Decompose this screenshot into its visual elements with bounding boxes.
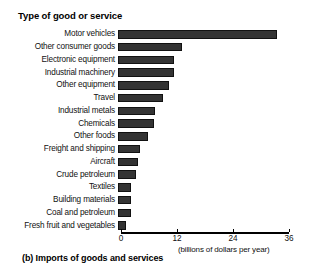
category-label: Other foods <box>0 132 118 140</box>
bar-row: Other foods <box>0 130 312 143</box>
bar-row: Other equipment <box>0 79 312 92</box>
category-label: Crude petroleum <box>0 171 118 179</box>
x-axis-tick-label: 36 <box>285 234 294 243</box>
category-label: Industrial machinery <box>0 69 118 77</box>
bar-row: Coal and petroleum <box>0 207 312 220</box>
bar-track <box>118 28 312 41</box>
y-axis-title: Type of good or service <box>18 10 122 21</box>
category-label: Coal and petroleum <box>0 209 118 217</box>
category-label: Motor vehicles <box>0 30 118 38</box>
bar <box>118 56 174 65</box>
category-label: Textiles <box>0 183 118 191</box>
category-label: Aircraft <box>0 158 118 166</box>
x-axis-tick-label: 0 <box>119 234 123 243</box>
x-axis-tick <box>177 229 178 233</box>
bar-track <box>118 156 312 169</box>
bar <box>118 183 131 192</box>
category-label: Other consumer goods <box>0 43 118 51</box>
bar-track <box>118 181 312 194</box>
bar-row: Electronic equipment <box>0 54 312 67</box>
x-axis-tick-label: 12 <box>173 234 182 243</box>
bar-row: Crude petroleum <box>0 168 312 181</box>
figure-caption: (b) Imports of goods and services <box>22 253 163 263</box>
bar <box>118 30 277 39</box>
category-label: Chemicals <box>0 120 118 128</box>
bar <box>118 107 155 116</box>
x-axis-line <box>121 232 289 234</box>
bar-chart-figure: Type of good or service Motor vehiclesOt… <box>0 0 312 273</box>
bar <box>118 158 138 167</box>
category-label: Travel <box>0 94 118 102</box>
x-axis-tick-label: 24 <box>229 234 238 243</box>
bar <box>118 170 136 179</box>
bar-track <box>118 41 312 54</box>
bar-track <box>118 194 312 207</box>
bar-track <box>118 105 312 118</box>
bar-row: Industrial metals <box>0 105 312 118</box>
bar-row: Freight and shipping <box>0 143 312 156</box>
bar-row: Chemicals <box>0 117 312 130</box>
bar-row: Building materials <box>0 194 312 207</box>
bar-track <box>118 219 312 232</box>
bar-row: Aircraft <box>0 156 312 169</box>
category-label: Fresh fruit and vegetables <box>0 222 118 230</box>
category-label: Industrial metals <box>0 107 118 115</box>
bar-track <box>118 117 312 130</box>
bar-row: Fresh fruit and vegetables <box>0 219 312 232</box>
bar-track <box>118 54 312 67</box>
bar-row: Industrial machinery <box>0 66 312 79</box>
bar <box>118 119 154 128</box>
bar-row: Textiles <box>0 181 312 194</box>
bar <box>118 145 140 154</box>
category-label: Electronic equipment <box>0 56 118 64</box>
bar <box>118 68 174 77</box>
bar <box>118 43 182 52</box>
bar-row: Motor vehicles <box>0 28 312 41</box>
category-label: Other equipment <box>0 81 118 89</box>
bar-track <box>118 143 312 156</box>
x-axis-tick <box>233 229 234 233</box>
bar <box>118 196 131 205</box>
bar-row: Other consumer goods <box>0 41 312 54</box>
category-label: Freight and shipping <box>0 145 118 153</box>
bar-track <box>118 130 312 143</box>
x-axis-tick <box>121 229 122 233</box>
bar-track <box>118 168 312 181</box>
x-axis-units-label: (billions of dollars per year) <box>178 245 270 254</box>
bar <box>118 81 169 90</box>
x-axis-tick <box>289 229 290 233</box>
bar <box>118 209 131 218</box>
bar-track <box>118 79 312 92</box>
bar-track <box>118 66 312 79</box>
category-label: Building materials <box>0 196 118 204</box>
bar <box>118 132 148 141</box>
plot-area: Motor vehiclesOther consumer goodsElectr… <box>0 28 312 232</box>
bar <box>118 94 163 103</box>
bar-track <box>118 207 312 220</box>
bar-row: Travel <box>0 92 312 105</box>
bar-track <box>118 92 312 105</box>
